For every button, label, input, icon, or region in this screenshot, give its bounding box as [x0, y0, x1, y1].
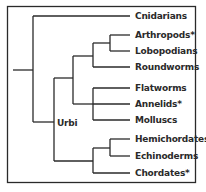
leaf-label-lobopodians: Lobopodians — [135, 46, 197, 56]
phylogenetic-tree — [0, 0, 206, 192]
leaf-label-echinoderms: Echinoderms — [135, 151, 198, 161]
leaf-label-arthropods: Arthropods* — [135, 30, 195, 40]
leaf-label-molluscs: Molluscs — [135, 115, 177, 125]
leaf-label-flatworms: Flatworms — [135, 83, 186, 93]
leaf-label-roundworms: Roundworms — [135, 62, 199, 72]
leaf-label-cnidarians: Cnidarians — [135, 11, 187, 21]
leaf-label-chordates: Chordates* — [135, 168, 190, 178]
node-label-urbi: Urbi — [57, 118, 77, 128]
leaf-label-annelids: Annelids* — [135, 99, 182, 109]
leaf-label-hemichordates: Hemichordates — [135, 134, 206, 144]
